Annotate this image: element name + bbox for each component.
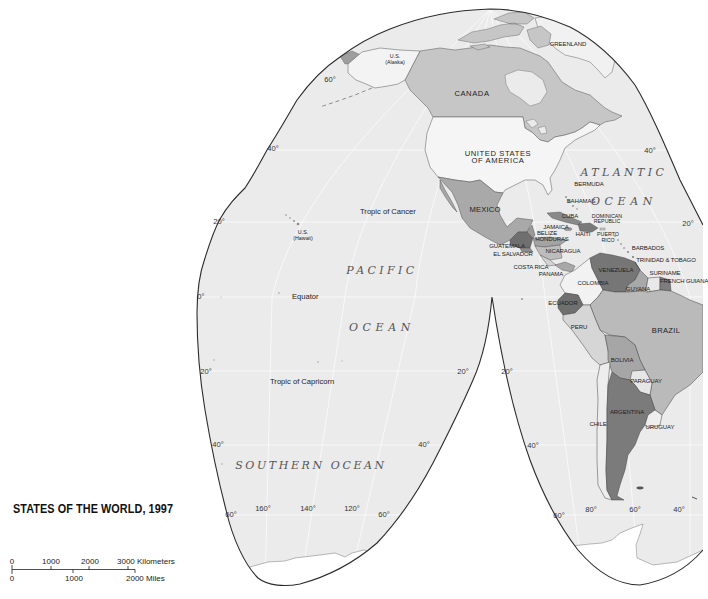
label-lat-0: 0° [197, 293, 204, 301]
label-trinidad-tobago: TRINIDAD & TOBAGO [636, 257, 695, 263]
label-tropic-of-cancer: Tropic of Cancer [360, 208, 416, 216]
scale-mi-0: 0 [10, 575, 14, 583]
label-lat-20s-cusp-left: 20° [457, 368, 468, 376]
label-canada: CANADA [454, 90, 489, 98]
label-pacific-line2: OCEAN [349, 322, 415, 333]
label-chile: CHILE [589, 421, 606, 427]
label-southern-ocean: SOUTHERN OCEAN [235, 460, 387, 471]
label-lat-40s-cusp-right: 40° [527, 442, 538, 450]
label-usa-line2: OF AMERICA [472, 157, 525, 165]
label-lon-60: 60° [629, 506, 640, 514]
label-lat-40s-cusp-left: 40° [418, 441, 429, 449]
label-haiti: HAITI [576, 231, 591, 237]
label-lat-60n-west: 60° [324, 76, 335, 84]
label-lat-60s-right-lobe: 60° [553, 512, 564, 520]
label-suriname: SURINAME [650, 270, 681, 276]
label-nicaragua: NICARAGUA [546, 248, 581, 254]
label-venezuela: VENEZUELA [599, 267, 634, 273]
label-lon-40: 40° [673, 506, 684, 514]
label-lat-20n-west: 20° [213, 218, 224, 226]
label-costa-rica: COSTA RICA [514, 264, 549, 270]
label-lat-20n-east: 20° [682, 220, 693, 228]
label-french-guiana: FRENCH GUIANA [660, 278, 708, 284]
label-lon-160: 160° [255, 505, 271, 513]
scale-mi-1000: 1000 [65, 575, 83, 583]
label-lat-60s-west: 60° [225, 511, 236, 519]
scale-mi-2000: 2000 Miles [126, 575, 165, 583]
label-lat-20s-cusp-right: 20° [501, 368, 512, 376]
label-puerto-rico-line2: RICO [601, 238, 614, 243]
label-guatemala: GUATEMALA [489, 243, 525, 249]
scale-km-2000: 2000 [81, 558, 99, 566]
label-uruguay: URUGUAY [646, 424, 675, 430]
label-cuba: CUBA [562, 213, 578, 219]
label-honduras: HONDURAS [535, 236, 569, 242]
label-paraguay: PARAGUAY [630, 378, 662, 384]
label-colombia: COLOMBIA [578, 280, 609, 286]
label-lat-60s-cusp-left: 60° [378, 511, 389, 519]
label-us-hawaii-line2: (Hawaii) [293, 236, 312, 241]
label-peru: PERU [571, 324, 587, 330]
label-lon-80: 80° [585, 506, 596, 514]
label-panama: PANAMA [539, 271, 563, 277]
label-dominican-republic-line2: REPUBLIC [594, 219, 621, 224]
label-equator: Equator [292, 293, 319, 301]
label-greenland: GREENLAND [550, 41, 586, 47]
label-lon-120: 120° [344, 505, 360, 513]
label-atlantic-line1: ATLANTIC [581, 167, 668, 178]
label-brazil: BRAZIL [652, 327, 680, 335]
label-atlantic-line2: OCEAN [591, 196, 657, 207]
label-lat-40n-east: 40° [644, 147, 655, 155]
scale-km-1000: 1000 [42, 558, 60, 566]
label-lon-140: 140° [300, 505, 316, 513]
label-lat-40s-west: 40° [212, 441, 223, 449]
scale-bar-graphic [12, 565, 135, 574]
label-argentina: ARGENTINA [610, 409, 644, 415]
label-mexico: MEXICO [469, 206, 500, 214]
scale-km-0: 0 [10, 558, 14, 566]
label-pacific-line1: PACIFIC [346, 265, 417, 276]
label-tropic-of-capricorn: Tropic of Capricorn [270, 378, 334, 386]
label-ecuador: ECUADOR [548, 300, 577, 306]
label-guyana: GUYANA [626, 286, 650, 292]
label-barbados: BARBADOS [632, 245, 665, 251]
scale-km-3000: 3000 Kilometers [117, 558, 175, 566]
label-lat-40n-west: 40° [267, 145, 278, 153]
puerto-rico-land [600, 228, 605, 230]
label-bolivia: BOLIVIA [611, 357, 634, 363]
falkland-islands [637, 487, 644, 490]
label-us-alaska-line2: (Alaska) [385, 60, 404, 65]
map-title: STATES OF THE WORLD, 1997 [13, 502, 173, 516]
label-lat-20s-west: 20° [200, 368, 211, 376]
label-el-salvador: EL SALVADOR [493, 251, 532, 257]
label-bermuda: BERMUDA [574, 181, 603, 187]
